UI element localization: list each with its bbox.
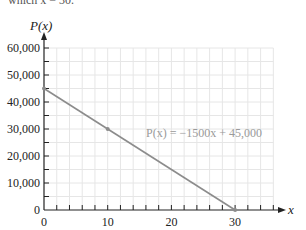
y-tick-label: 0 xyxy=(34,203,40,217)
x-axis-label: x xyxy=(287,202,294,217)
y-tick-label: 50,000 xyxy=(7,68,40,82)
equation-annotation: P(x) = −1500x + 45,000 xyxy=(146,126,262,140)
x-tick-label: 20 xyxy=(165,215,177,229)
data-point-marker xyxy=(233,208,237,212)
data-point-marker xyxy=(42,87,46,91)
line-chart: 0102030010,00020,00030,00040,00050,00060… xyxy=(0,0,306,230)
y-axis-label: P(x) xyxy=(29,18,52,33)
y-axis-arrow-icon xyxy=(41,32,47,40)
x-tick-label: 0 xyxy=(41,215,47,229)
series-line xyxy=(42,87,237,213)
x-tick-label: 30 xyxy=(229,215,241,229)
x-axis-arrow-icon xyxy=(278,207,286,213)
y-tick-label: 10,000 xyxy=(7,176,40,190)
y-tick-label: 30,000 xyxy=(7,122,40,136)
profit-line xyxy=(44,89,235,211)
y-tick-label: 20,000 xyxy=(7,149,40,163)
x-tick-label: 10 xyxy=(102,215,114,229)
y-tick-label: 40,000 xyxy=(7,95,40,109)
y-tick-label: 60,000 xyxy=(7,41,40,55)
data-point-marker xyxy=(106,127,110,131)
axes xyxy=(41,32,286,213)
